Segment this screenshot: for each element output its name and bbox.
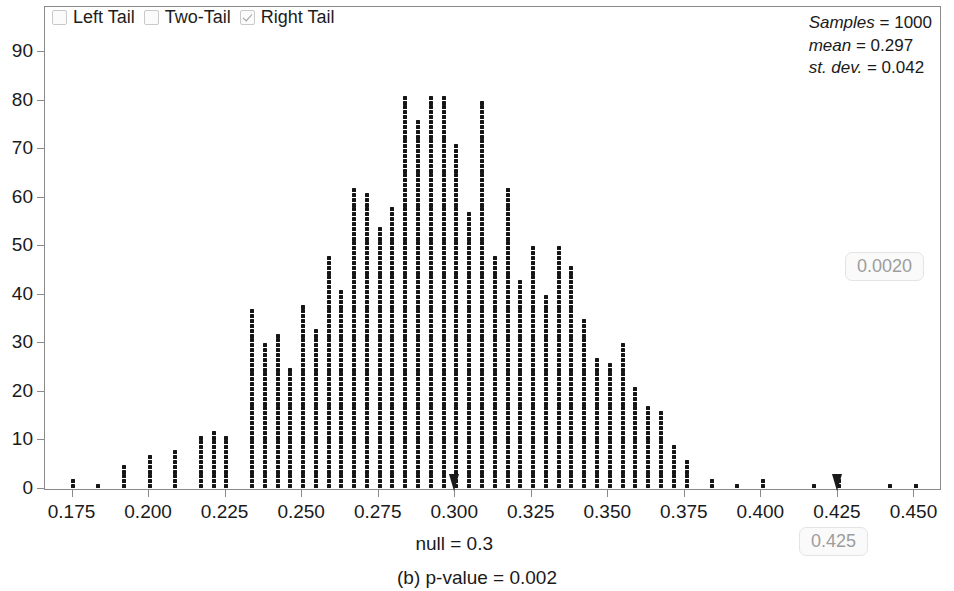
dot (454, 159, 458, 163)
dot (557, 314, 561, 318)
dot (352, 285, 356, 289)
dot (595, 397, 599, 401)
dot (403, 207, 407, 211)
dot (250, 319, 254, 323)
dot (314, 382, 318, 386)
dot (327, 300, 331, 304)
dot (314, 343, 318, 347)
dot (416, 256, 420, 260)
dot (480, 305, 484, 309)
dot (429, 382, 433, 386)
dot (506, 436, 510, 440)
dot (557, 397, 561, 401)
dot (569, 338, 573, 342)
dot (557, 445, 561, 449)
dot (314, 421, 318, 425)
dot (506, 484, 510, 488)
dot (416, 120, 420, 124)
dot (378, 251, 382, 255)
dot (480, 368, 484, 372)
y-tick-label: 20 (12, 380, 33, 402)
legend-item-two-tail[interactable]: Two-Tail (144, 8, 231, 26)
dot (378, 309, 382, 313)
dot (390, 275, 394, 279)
samples-row: Samples = 1000 (809, 12, 932, 35)
dot (288, 406, 292, 410)
dot (480, 110, 484, 114)
dot (582, 358, 586, 362)
dot (467, 358, 471, 362)
dot (378, 363, 382, 367)
dot (633, 450, 637, 454)
checkbox-right-tail-icon[interactable] (240, 10, 255, 25)
dot (301, 348, 305, 352)
dot (544, 300, 548, 304)
legend-item-left-tail[interactable]: Left Tail (52, 8, 135, 26)
dot (429, 105, 433, 109)
dot (365, 241, 369, 245)
dot (506, 470, 510, 474)
tail-selector-legend[interactable]: Left TailTwo-TailRight Tail (52, 8, 334, 26)
dot (390, 338, 394, 342)
dot (672, 460, 676, 464)
dot (314, 455, 318, 459)
dot (416, 445, 420, 449)
dot (378, 411, 382, 415)
dot (71, 484, 75, 488)
dot (314, 372, 318, 376)
legend-item-right-tail[interactable]: Right Tail (240, 8, 335, 26)
dot (429, 324, 433, 328)
figure-caption: (b) p-value = 0.002 (0, 567, 954, 589)
checkbox-left-tail-icon[interactable] (52, 10, 67, 25)
dot (314, 431, 318, 435)
cutoff-badge[interactable]: 0.425 (799, 527, 868, 556)
dot (314, 348, 318, 352)
dot (621, 460, 625, 464)
dot (365, 411, 369, 415)
dot (429, 319, 433, 323)
dot (544, 314, 548, 318)
dot (442, 368, 446, 372)
dot (672, 450, 676, 454)
null-value-marker[interactable] (449, 474, 459, 491)
dot (531, 382, 535, 386)
dot (327, 368, 331, 372)
cutoff-value-marker[interactable] (832, 474, 842, 491)
p-value-badge[interactable]: 0.0020 (845, 252, 924, 281)
dot (569, 305, 573, 309)
checkbox-two-tail-icon[interactable] (144, 10, 159, 25)
dot (224, 440, 228, 444)
dot (365, 207, 369, 211)
dot (416, 241, 420, 245)
dot (429, 237, 433, 241)
dot (352, 334, 356, 338)
dot (199, 470, 203, 474)
dot (250, 431, 254, 435)
y-tick-label: 50 (12, 234, 33, 256)
dot (467, 387, 471, 391)
dot (467, 271, 471, 275)
x-tick-label: 0.200 (124, 501, 172, 523)
dot (416, 237, 420, 241)
dot (493, 324, 497, 328)
dot (403, 164, 407, 168)
dot (339, 382, 343, 386)
dot (416, 421, 420, 425)
dot (378, 358, 382, 362)
dot (582, 382, 586, 386)
dot (288, 397, 292, 401)
dot (403, 470, 407, 474)
dot (365, 212, 369, 216)
dot (480, 338, 484, 342)
dot (429, 222, 433, 226)
dot (403, 436, 407, 440)
dot (646, 470, 650, 474)
dot (390, 460, 394, 464)
dot (557, 421, 561, 425)
dot (621, 474, 625, 478)
dot (544, 470, 548, 474)
dot (544, 382, 548, 386)
dot (557, 271, 561, 275)
dot (454, 290, 458, 294)
dot (467, 402, 471, 406)
